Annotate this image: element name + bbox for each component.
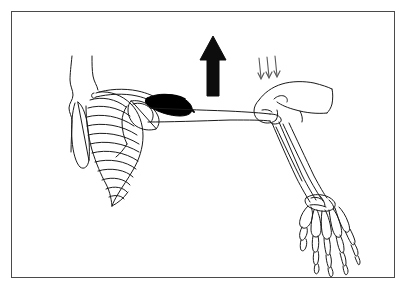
rib-cage <box>86 92 143 206</box>
anatomy-illustration <box>0 0 406 291</box>
forearm-bones <box>272 122 327 202</box>
force-arrow-1 <box>258 58 264 79</box>
force-arrow-2 <box>266 57 272 78</box>
sternum <box>72 102 90 168</box>
upward-arrow <box>200 36 226 96</box>
phalanges <box>300 227 360 277</box>
force-arrow-3 <box>274 56 280 77</box>
spine <box>69 56 98 152</box>
ulna <box>272 123 310 202</box>
examiner-hand <box>254 82 333 123</box>
figure-root: Shoulder abduction resistance examinatio… <box>0 0 406 291</box>
downward-force-arrows <box>258 56 280 79</box>
